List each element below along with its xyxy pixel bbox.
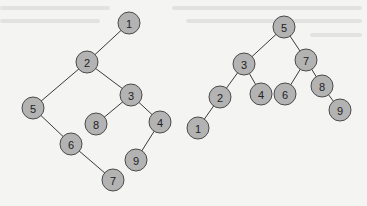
node-label: 2 <box>84 57 90 69</box>
node-label: 7 <box>303 55 309 67</box>
right-tree-node-3: 3 <box>233 53 255 75</box>
left-tree-node-6: 6 <box>60 133 82 155</box>
node-label: 2 <box>217 92 223 104</box>
node-label: 8 <box>319 81 325 93</box>
diagram-canvas: 125384697537246819 <box>0 0 367 206</box>
node-label: 5 <box>30 103 36 115</box>
tree-edges <box>33 23 340 180</box>
node-label: 4 <box>157 117 163 129</box>
left-tree-node-4: 4 <box>149 111 171 133</box>
node-label: 3 <box>128 90 134 102</box>
node-label: 9 <box>133 155 139 167</box>
node-label: 6 <box>282 89 288 101</box>
right-tree-node-8: 8 <box>311 75 333 97</box>
node-label: 4 <box>258 89 264 101</box>
left-tree-node-2: 2 <box>76 51 98 73</box>
left-tree-node-5: 5 <box>22 97 44 119</box>
left-tree-node-8: 8 <box>85 113 107 135</box>
node-label: 1 <box>195 123 201 135</box>
node-label: 7 <box>110 175 116 187</box>
right-tree-node-1: 1 <box>187 117 209 139</box>
right-tree-node-4: 4 <box>250 83 272 105</box>
right-tree-node-2: 2 <box>209 86 231 108</box>
binary-trees-figure: 125384697537246819 <box>0 0 367 206</box>
node-label: 1 <box>126 18 132 30</box>
left-tree-node-7: 7 <box>102 169 124 191</box>
node-label: 9 <box>337 105 343 117</box>
right-tree-node-5: 5 <box>273 16 295 38</box>
tree-nodes: 125384697537246819 <box>22 12 351 191</box>
node-label: 6 <box>68 139 74 151</box>
node-label: 8 <box>93 119 99 131</box>
right-tree-node-7: 7 <box>295 49 317 71</box>
node-label: 3 <box>241 59 247 71</box>
right-tree-node-9: 9 <box>329 99 351 121</box>
node-label: 5 <box>281 22 287 34</box>
left-tree-node-9: 9 <box>125 149 147 171</box>
left-tree-node-1: 1 <box>118 12 140 34</box>
right-tree-node-6: 6 <box>274 83 296 105</box>
left-tree-node-3: 3 <box>120 84 142 106</box>
